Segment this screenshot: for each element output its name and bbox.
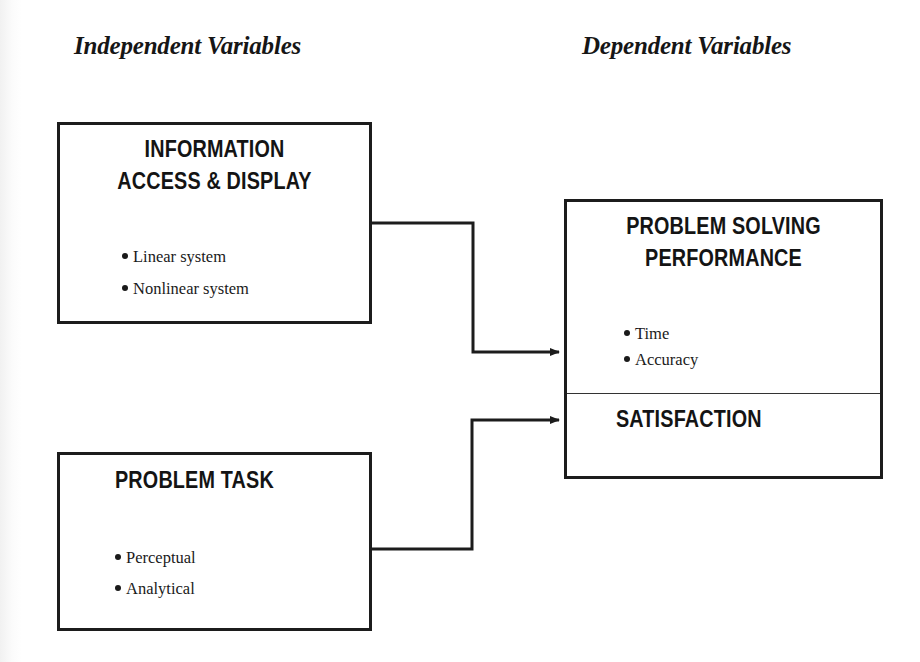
performance-title-line1: PROBLEM SOLVING — [589, 210, 858, 242]
bullet-icon — [122, 253, 128, 259]
list-item: Linear system — [122, 241, 249, 273]
information-bullet-list: Linear system Nonlinear system — [122, 241, 249, 305]
bullet-icon — [624, 330, 630, 336]
bullet-icon — [115, 585, 121, 591]
independent-variables-heading: Independent Variables — [74, 32, 301, 60]
problem-task-box: PROBLEM TASK Perceptual Analytical — [57, 452, 372, 631]
information-box-title-line1: INFORMATION — [82, 133, 348, 165]
satisfaction-title: SATISFACTION — [616, 403, 762, 435]
bullet-label: Nonlinear system — [133, 279, 249, 298]
list-item: Perceptual — [115, 542, 196, 573]
bullet-icon — [115, 554, 121, 560]
bullet-icon — [122, 285, 128, 291]
list-item: Nonlinear system — [122, 273, 249, 305]
information-access-display-box: INFORMATION ACCESS & DISPLAY Linear syst… — [57, 122, 372, 324]
list-item: Accuracy — [624, 347, 698, 373]
problem-task-title: PROBLEM TASK — [115, 464, 274, 496]
dependent-variables-heading: Dependent Variables — [582, 32, 791, 60]
performance-title-line2: PERFORMANCE — [589, 242, 858, 274]
list-item: Time — [624, 321, 698, 347]
dependent-variables-box: PROBLEM SOLVING PERFORMANCE Time Accurac… — [564, 199, 883, 479]
performance-bullet-list: Time Accuracy — [624, 321, 698, 373]
problem-task-bullet-list: Perceptual Analytical — [115, 542, 196, 604]
information-box-title-line2: ACCESS & DISPLAY — [82, 165, 348, 197]
bullet-label: Accuracy — [635, 350, 698, 369]
bullet-label: Perceptual — [126, 548, 196, 567]
bullet-label: Time — [635, 324, 669, 343]
bullet-icon — [624, 356, 630, 362]
arrow-task-to-satisfaction — [371, 420, 559, 549]
list-item: Analytical — [115, 573, 196, 604]
arrow-information-to-performance — [371, 223, 559, 352]
bullet-label: Analytical — [126, 579, 195, 598]
bullet-label: Linear system — [133, 247, 226, 266]
section-divider — [567, 393, 880, 394]
